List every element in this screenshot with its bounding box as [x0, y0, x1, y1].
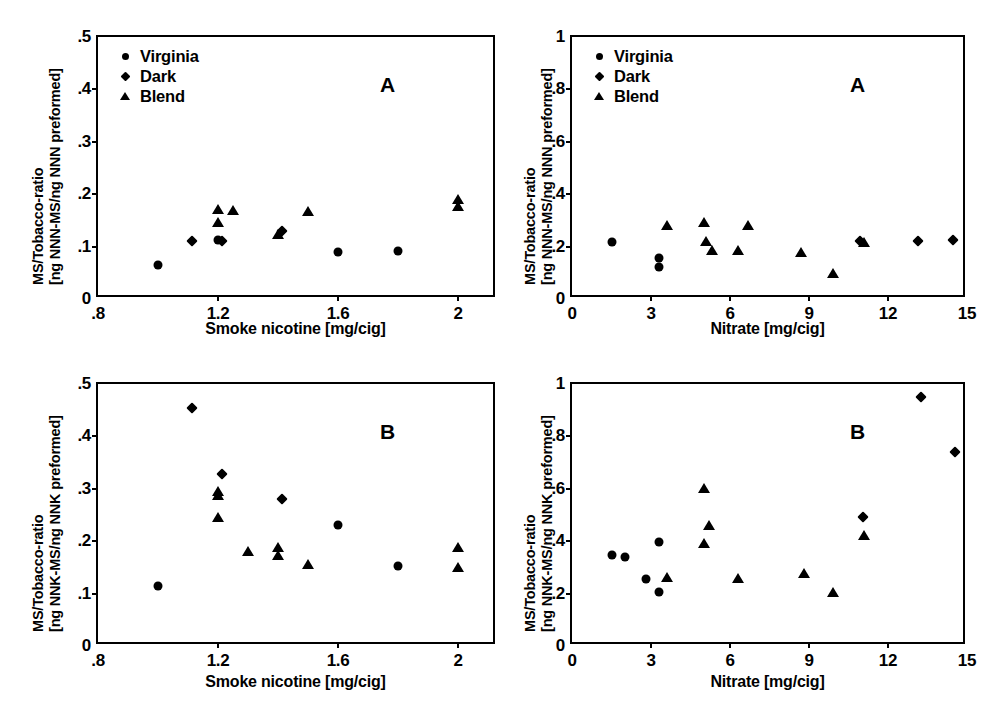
data-point-triangle [698, 538, 710, 548]
y-tick-mark [92, 88, 98, 90]
diamond-marker-icon [590, 73, 608, 80]
x-tick-label: .8 [91, 642, 105, 671]
data-point-circle [641, 575, 650, 584]
data-point-triangle [858, 530, 870, 540]
x-tick-mark [217, 295, 219, 301]
data-point-diamond [950, 447, 961, 458]
x-axis-title-panel-1: Nitrate [mg/cig] [570, 320, 965, 338]
y-axis-title-panel-0: MS/Tobacco-ratio [ng NNN-MS/ng NNN prefo… [30, 68, 63, 285]
y-tick-mark [92, 540, 98, 542]
data-point-triangle [732, 245, 744, 255]
y-tick-mark [566, 141, 572, 143]
data-point-triangle [706, 245, 718, 255]
y-tick-mark [566, 193, 572, 195]
y-tick-mark [566, 435, 572, 437]
data-point-circle [154, 581, 163, 590]
x-tick-mark [650, 642, 652, 648]
x-tick-mark [457, 642, 459, 648]
data-point-circle [394, 562, 403, 571]
x-tick-mark [808, 295, 810, 301]
panel-letter-3: B [850, 420, 865, 444]
y-tick-label: .5 [77, 374, 98, 394]
x-axis-title-panel-3: Nitrate [mg/cig] [570, 673, 965, 691]
legend-label-virginia: Virginia [608, 47, 673, 66]
data-point-circle [607, 550, 616, 559]
y-tick-mark [566, 246, 572, 248]
panel-letter-2: B [380, 420, 395, 444]
legend-label-blend: Blend [134, 87, 185, 106]
x-tick-mark [729, 642, 731, 648]
data-point-circle [654, 253, 663, 262]
panel-top-right: MS/Tobacco-ratio [ng NNN-MS/ng NNN prefo… [500, 0, 1000, 358]
data-point-circle [154, 260, 163, 269]
data-point-triangle [302, 559, 314, 569]
data-point-diamond [216, 468, 227, 479]
data-point-triangle [452, 201, 464, 211]
y-tick-label: 1 [556, 374, 572, 394]
data-point-triangle [732, 573, 744, 583]
data-point-circle [607, 237, 616, 246]
x-tick-mark [337, 642, 339, 648]
y-tick-mark [566, 88, 572, 90]
data-point-diamond [915, 391, 926, 402]
data-point-circle [334, 247, 343, 256]
data-point-triangle [302, 206, 314, 216]
panel-top-left: MS/Tobacco-ratio [ng NNN-MS/ng NNN prefo… [0, 0, 500, 358]
x-tick-label: 15 [958, 642, 976, 671]
data-point-triangle [212, 512, 224, 522]
circle-marker-icon [116, 53, 134, 60]
legend-label-dark: Dark [608, 67, 650, 86]
legend-item-virginia: Virginia [590, 46, 673, 66]
data-point-triangle [272, 550, 284, 560]
legend-label-virginia: Virginia [134, 47, 199, 66]
data-point-triangle [703, 520, 715, 530]
y-tick-mark [566, 488, 572, 490]
data-point-circle [654, 263, 663, 272]
data-point-triangle [212, 204, 224, 214]
data-point-triangle [452, 542, 464, 552]
y-axis-title-line2: [ng NNN-MS/ng NNN preformed] [47, 68, 64, 285]
x-tick-mark [457, 295, 459, 301]
y-tick-label: .5 [77, 27, 98, 47]
y-axis-title-line1: MS/Tobacco-ratio [30, 68, 47, 285]
x-tick-mark [337, 295, 339, 301]
data-point-triangle [795, 247, 807, 257]
data-point-triangle [272, 229, 284, 239]
data-point-triangle [212, 217, 224, 227]
data-point-triangle [661, 572, 673, 582]
x-tick-mark [729, 295, 731, 301]
data-point-triangle [661, 220, 673, 230]
data-point-diamond [186, 235, 197, 246]
x-tick-mark [650, 295, 652, 301]
plot-frame-panel-2: 0.1.2.3.4.5.81.21.62 B [96, 382, 495, 644]
legend-panel-1: Virginia Dark Blend [590, 46, 673, 106]
y-tick-mark [566, 540, 572, 542]
y-axis-title-line1: MS/Tobacco-ratio [30, 415, 47, 632]
y-tick-mark [92, 246, 98, 248]
data-point-triangle [242, 546, 254, 556]
y-axis-title-line2: [ng NNK-MS/ng NNK preformed] [47, 415, 64, 632]
y-axis-title-panel-1: MS/Tobacco-ratio [ng NNN-MS/ng NNN prefo… [522, 68, 555, 285]
y-tick-mark [92, 435, 98, 437]
legend-item-blend: Blend [590, 86, 673, 106]
data-point-diamond [276, 493, 287, 504]
data-point-circle [334, 520, 343, 529]
x-tick-mark [217, 642, 219, 648]
y-tick-mark [92, 593, 98, 595]
legend-item-virginia: Virginia [116, 46, 199, 66]
data-point-triangle [452, 562, 464, 572]
legend-item-dark: Dark [116, 66, 199, 86]
plot-frame-panel-3: 0.2.4.6.8103691215 B [570, 382, 965, 644]
y-axis-title-panel-3: MS/Tobacco-ratio [ng NNK-MS/ng NNK prefo… [522, 415, 555, 632]
data-point-triangle [212, 490, 224, 500]
data-point-diamond [857, 511, 868, 522]
circle-marker-icon [590, 53, 608, 60]
plot-area-panel-3: 0.2.4.6.8103691215 [572, 384, 963, 642]
data-point-triangle [827, 587, 839, 597]
y-tick-label: 1 [556, 27, 572, 47]
panel-bottom-right: MS/Tobacco-ratio [ng NNK-MS/ng NNK prefo… [500, 347, 1000, 715]
plot-area-panel-2: 0.1.2.3.4.5.81.21.62 [98, 384, 493, 642]
triangle-marker-icon [116, 92, 134, 100]
legend-item-dark: Dark [590, 66, 673, 86]
x-tick-mark [808, 642, 810, 648]
